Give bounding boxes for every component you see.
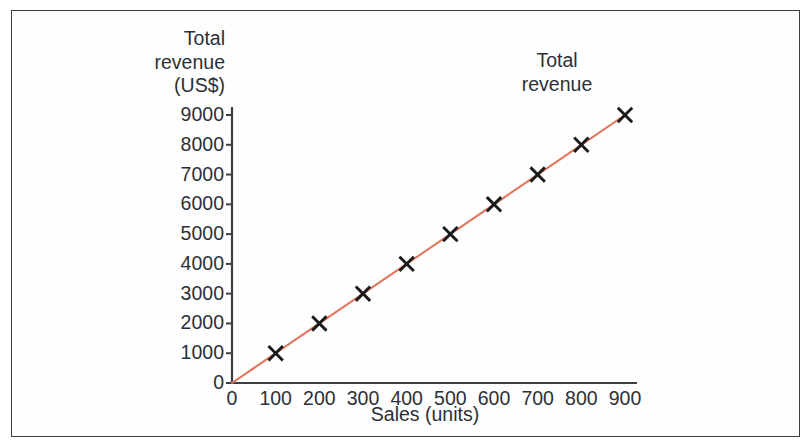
- line-chart: Total revenue (US$) Sales (units) Total …: [0, 0, 810, 447]
- y-tick-label: 9000: [102, 103, 224, 126]
- figure-page: Total revenue (US$) Sales (units) Total …: [0, 0, 810, 447]
- y-tick-label: 5000: [102, 222, 224, 245]
- data-point-marker: [487, 197, 501, 211]
- data-point-marker: [312, 316, 326, 330]
- y-tick-label: 7000: [102, 163, 224, 186]
- data-point-marker: [356, 286, 370, 300]
- data-line-total-revenue: [232, 115, 625, 383]
- data-point-marker: [530, 167, 544, 181]
- data-point-marker: [574, 138, 588, 152]
- data-point-marker: [443, 227, 457, 241]
- y-tick-label: 8000: [102, 133, 224, 156]
- data-point-marker: [399, 257, 413, 271]
- x-tick-label: 900: [595, 387, 655, 410]
- y-tick-label: 3000: [102, 282, 224, 305]
- y-tick-label: 2000: [102, 311, 224, 334]
- y-tick-label: 4000: [102, 252, 224, 275]
- y-tick-label: 6000: [102, 192, 224, 215]
- data-point-marker: [618, 108, 632, 122]
- y-tick-label: 1000: [102, 341, 224, 364]
- data-point-marker: [268, 346, 282, 360]
